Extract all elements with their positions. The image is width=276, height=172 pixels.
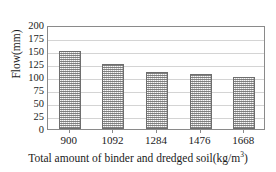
x-axis-title: Total amount of binder and dredged soil(… [0,151,276,165]
x-axis-title-text: Total amount of binder and dredged soil(… [28,152,240,164]
x-axis-tick-mark [112,130,113,133]
y-axis-tick-label: 200 [14,21,44,31]
y-axis-tick-label: 50 [14,99,44,109]
bar [190,74,212,129]
bar [102,64,124,129]
bar-chart-figure: Flow(mm) 0255075100125150175200 90010921… [0,0,276,172]
bar [146,72,168,129]
x-axis-title-suffix: ) [244,152,248,164]
bar [233,77,255,129]
y-axis-tick-label: 25 [14,112,44,122]
y-axis-tick-label: 175 [14,34,44,44]
x-axis-tick-mark [243,130,244,133]
x-axis-tick-label: 1668 [213,134,273,147]
y-axis-tick-label: 125 [14,60,44,70]
y-axis-tick-label: 75 [14,86,44,96]
bar [59,51,81,129]
x-axis-tick-labels: 9001092128414761668 [47,134,265,150]
x-axis-tick-mark [200,130,201,133]
bar-series [48,27,264,129]
y-axis-tick-label: 100 [14,73,44,83]
x-axis-tick-mark [69,130,70,133]
y-axis-tick-label: 150 [14,47,44,57]
plot-area [47,26,265,130]
x-axis-tick-mark [156,130,157,133]
y-axis-tick-labels: 0255075100125150175200 [14,26,44,130]
